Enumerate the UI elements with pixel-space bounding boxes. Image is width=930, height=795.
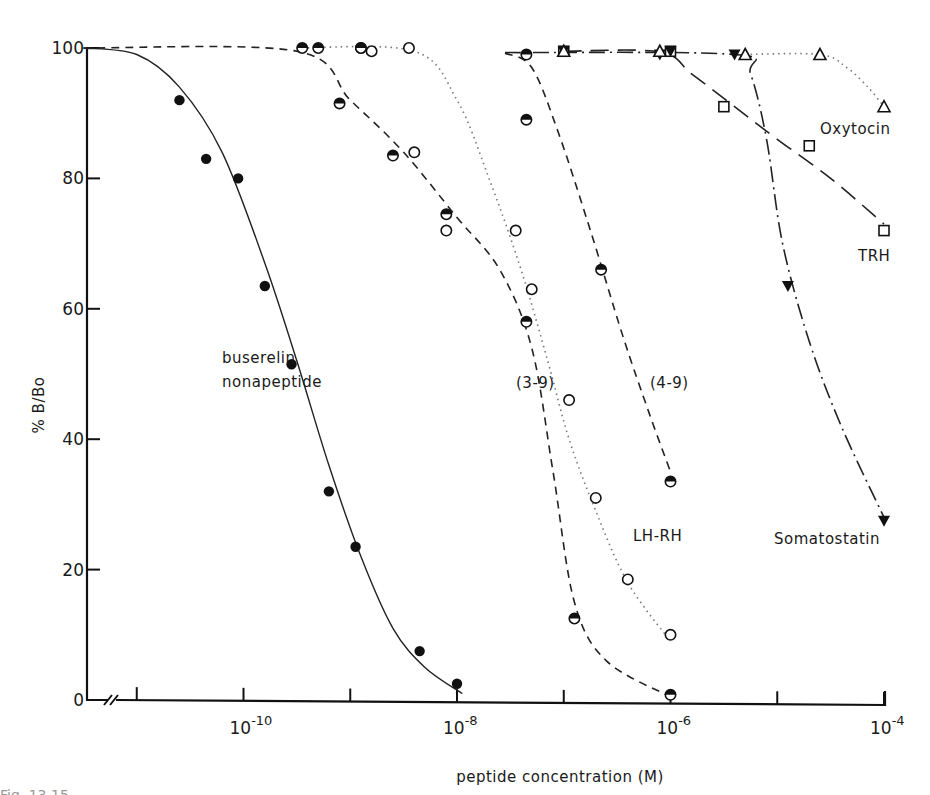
filled-circle-marker (350, 542, 360, 552)
y-axis-label: % B/Bo (30, 377, 48, 434)
curve-buserelin-nonapeptide (83, 48, 462, 693)
y-tick-label: 20 (62, 560, 84, 580)
half-filled-circle-marker (313, 43, 323, 53)
open-circle-marker (591, 493, 601, 503)
x-tick-label: 10-6 (657, 713, 692, 738)
half-filled-circle-marker (521, 49, 531, 59)
curve-label: (3-9) (516, 374, 555, 392)
open-circle-marker (409, 147, 419, 157)
y-tick-label: 40 (62, 429, 84, 449)
open-triangle-up-marker (814, 49, 826, 60)
x-tick-label: 10-8 (443, 713, 478, 738)
half-filled-circle-marker (569, 613, 579, 623)
curves (83, 46, 884, 696)
half-filled-circle-marker (297, 43, 307, 53)
curve-label: buserelin (222, 349, 295, 367)
half-filled-circle-marker (665, 690, 675, 700)
half-filled-circle-marker (441, 209, 451, 219)
curve-label: nonapeptide (222, 373, 322, 391)
open-circle-marker (665, 630, 675, 640)
open-square-marker (879, 226, 889, 236)
open-triangle-up-marker (878, 101, 890, 112)
dose-response-chart: 02040608010010-1010-810-610-4 buserelinn… (0, 0, 930, 795)
curve-lh-rh (297, 46, 671, 641)
open-circle-marker (441, 225, 451, 235)
half-filled-circle-marker (356, 43, 366, 53)
half-filled-circle-marker (665, 476, 675, 486)
open-circle-marker (564, 395, 574, 405)
half-filled-circle-marker (521, 317, 531, 327)
half-filled-circle-marker (334, 98, 344, 108)
x-axis-line (116, 691, 885, 705)
curve-label: Somatostatin (774, 530, 880, 548)
x-tick-label: 10-10 (230, 713, 273, 738)
y-tick-label: 0 (73, 690, 84, 710)
half-filled-circle-marker (521, 115, 531, 125)
y-tick-label: 100 (52, 38, 84, 58)
open-circle-marker (366, 46, 376, 56)
filled-circle-marker (414, 646, 424, 656)
filled-circle-marker (260, 281, 270, 291)
half-filled-circle-marker (596, 264, 606, 274)
x-tick-label: 10-4 (870, 713, 905, 738)
open-circle-marker (404, 43, 414, 53)
open-square-marker (804, 141, 814, 151)
y-axis-line (87, 48, 108, 700)
y-tick-label: 80 (62, 168, 84, 188)
open-square-marker (719, 102, 729, 112)
open-circle-marker (623, 574, 633, 584)
curve-oxytocin (745, 54, 884, 107)
filled-circle-marker (233, 173, 243, 183)
curve-label: TRH (857, 247, 890, 265)
curve--3-9- (83, 46, 670, 696)
axes: 02040608010010-1010-810-610-4 (52, 38, 905, 738)
filled-triangle-down-marker (782, 281, 794, 292)
figure-caption: Fig. 13.15 (0, 784, 930, 795)
curve-label: Oxytocin (820, 120, 891, 138)
half-filled-circle-marker (388, 150, 398, 160)
curve-labels: buserelinnonapeptide(3-9)(4-9)LH-RHSomat… (222, 120, 891, 548)
filled-circle-marker (174, 95, 184, 105)
y-tick-label: 60 (62, 299, 84, 319)
data-markers (174, 43, 890, 700)
open-circle-marker (511, 225, 521, 235)
curve-label: (4-9) (650, 374, 689, 392)
curve-label: LH-RH (633, 527, 682, 545)
filled-circle-marker (452, 679, 462, 689)
filled-circle-marker (324, 486, 334, 496)
filled-triangle-down-marker (878, 516, 890, 527)
open-triangle-up-marker (739, 49, 751, 60)
filled-circle-marker (201, 154, 211, 164)
open-circle-marker (527, 284, 537, 294)
